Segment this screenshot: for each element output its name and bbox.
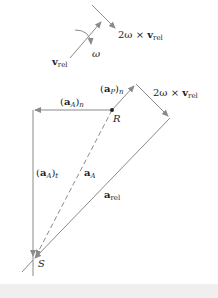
omega-label: ω [92,49,100,59]
a-rel-label: arel [104,190,120,202]
diagram-lines [0,0,218,298]
aA-label: aA [84,168,96,180]
a-rel-extension [22,260,33,272]
coriolis-label: 2ω × vrel [153,88,198,100]
aA-n-label: (aA)n [60,97,84,109]
bottom-strip [0,284,218,298]
point-R-label: R [113,114,121,124]
coriolis-top-label: 2ω × vrel [118,30,163,42]
coriolis-vector-top [92,5,115,28]
aA-t-label: (aA)t [36,168,58,180]
aA-vector [36,110,112,256]
a-rel-vector [35,118,170,258]
v-rel-label: vrel [52,57,68,69]
point-S-label: S [38,259,45,269]
aP-n-label: (aP)n [100,84,124,96]
point-R-dot [110,108,114,112]
